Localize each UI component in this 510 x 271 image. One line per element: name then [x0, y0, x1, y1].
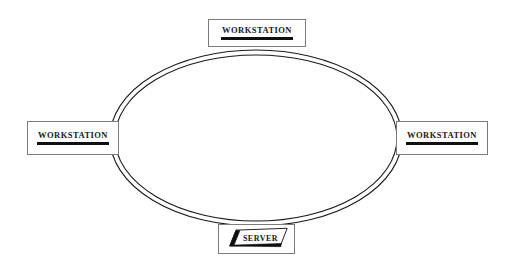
node-workstation-top[interactable]: WORKSTATION	[208, 19, 306, 47]
network-ring-inner-ellipse	[115, 55, 397, 221]
node-workstation-left[interactable]: WORKSTATION	[27, 121, 119, 155]
node-workstation-top-content: WORKSTATION	[221, 26, 293, 40]
node-workstation-top-underline	[221, 37, 293, 40]
node-workstation-right-content: WORKSTATION	[406, 131, 478, 145]
node-server[interactable]: SERVER	[218, 224, 295, 254]
node-workstation-left-content: WORKSTATION	[37, 131, 109, 145]
node-workstation-right-underline	[406, 142, 478, 145]
node-server-label: SERVER	[223, 224, 298, 252]
node-workstation-top-label: WORKSTATION	[222, 26, 292, 35]
network-ring-outer-ellipse	[110, 50, 402, 226]
node-workstation-right[interactable]: WORKSTATION	[396, 121, 488, 155]
node-workstation-left-label: WORKSTATION	[38, 131, 108, 140]
node-workstation-right-label: WORKSTATION	[407, 131, 477, 140]
ring-topology-diagram: WORKSTATION WORKSTATION WORKSTATION SERV…	[0, 0, 510, 271]
node-workstation-left-underline	[37, 142, 109, 145]
